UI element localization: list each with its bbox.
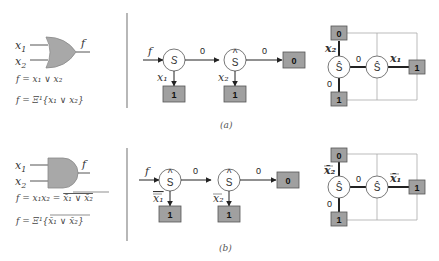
- svg-text:S: S: [167, 177, 174, 188]
- chain-node-1-side: x₁: [157, 71, 168, 84]
- input-x2-label-b: x2: [15, 175, 26, 190]
- svg-text:0: 0: [327, 199, 332, 209]
- svg-text:0: 0: [256, 166, 261, 176]
- svg-text:S: S: [226, 177, 233, 188]
- chain-node-2-side: x₂: [218, 71, 229, 84]
- output-f-label: f: [80, 37, 87, 50]
- equation-a1: f = x₁ ∨ x₂: [15, 74, 63, 84]
- svg-text:Ŝ: Ŝ: [374, 181, 381, 193]
- svg-text:0: 0: [356, 174, 361, 184]
- chain-node-2-label: S: [232, 57, 239, 68]
- chain-input-f: f: [147, 45, 154, 58]
- input-x2-label: x2: [15, 55, 26, 70]
- svg-text:0: 0: [285, 176, 290, 186]
- svg-text:1: 1: [336, 95, 341, 105]
- chain-edge-1-label: 0: [200, 46, 205, 56]
- caption-a: (a): [220, 120, 233, 130]
- chain-b: f ^ S 0 x₁ 1 ^ S 0 x₂ 1 0: [139, 165, 299, 222]
- or-gate-body: [46, 37, 76, 68]
- input-x1-label-b: x1: [15, 159, 26, 174]
- grid-label-down: 0: [327, 79, 332, 89]
- svg-text:Ŝ: Ŝ: [336, 181, 343, 193]
- and-gate: [30, 158, 90, 188]
- svg-text:1: 1: [336, 215, 341, 225]
- grid-label-right: x₁: [389, 52, 401, 65]
- svg-text:1: 1: [167, 210, 172, 220]
- svg-text:1: 1: [171, 90, 176, 100]
- chain-node-1-label: S: [171, 55, 178, 66]
- chain-edge-2-label: 0: [262, 46, 267, 56]
- grid-label-mid: 0: [356, 54, 361, 64]
- output-f-label-b: f: [81, 158, 88, 171]
- svg-text:1: 1: [232, 90, 237, 100]
- and-gate-body: [48, 158, 78, 188]
- svg-text:Ŝ: Ŝ: [374, 61, 381, 73]
- svg-text:1: 1: [414, 183, 419, 193]
- svg-text:0: 0: [336, 29, 341, 39]
- diagram-canvas: x1 x2 f f = x₁ ∨ x₂ f = Ξ¹{x₁ ∨ x₂} f S …: [0, 0, 439, 261]
- equation-b2: f = Ξ¹{x̄₁ ∨ x̄₂}: [15, 216, 84, 226]
- input-x1-label: x1: [15, 39, 26, 54]
- caption-b: (b): [219, 243, 232, 253]
- grid-label-up: x₂: [324, 42, 337, 55]
- svg-text:0: 0: [291, 56, 296, 66]
- panel-b: x1 x2 f f = x₁x₂ = x̄₁ ∨ x̄₂ f = Ξ¹{x̄₁ …: [15, 148, 425, 253]
- equation-a2: f = Ξ¹{x₁ ∨ x₂}: [15, 95, 84, 105]
- chain-a: f S 0 x₁ 1 ^ S 0 x₂ 1 0: [143, 45, 305, 102]
- panel-a: x1 x2 f f = x₁ ∨ x₂ f = Ξ¹{x₁ ∨ x₂} f S …: [15, 13, 425, 130]
- svg-text:0: 0: [193, 166, 198, 176]
- equation-b1: f = x₁x₂ = x̄₁ ∨ x̄₂: [15, 193, 93, 203]
- svg-text:Ŝ: Ŝ: [336, 61, 343, 73]
- grid-b: 0 1 1 Ŝ Ŝ x̄₂ 0 0 x̄₁: [323, 148, 425, 226]
- svg-text:0: 0: [336, 151, 341, 161]
- svg-text:f: f: [144, 165, 151, 178]
- grid-a: 0 1 1 Ŝ Ŝ x₂ 0 0 x₁: [324, 26, 425, 106]
- svg-text:1: 1: [226, 210, 231, 220]
- svg-text:1: 1: [414, 63, 419, 73]
